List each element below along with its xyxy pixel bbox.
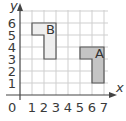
- svg-text:7: 7: [100, 100, 108, 115]
- y-tick-labels: 1 2 3 4 5 6: [8, 16, 16, 91]
- svg-text:5: 5: [76, 100, 84, 115]
- svg-text:2: 2: [40, 100, 48, 115]
- shape-a-label: A: [95, 46, 104, 61]
- x-tick-labels: 1 2 3 4 5 6 7: [28, 100, 108, 115]
- origin-label: 0: [8, 100, 16, 115]
- y-axis-arrow-icon: [17, 3, 23, 11]
- shape-b-label: B: [46, 22, 55, 37]
- svg-text:3: 3: [52, 100, 60, 115]
- y-axis-label: y: [9, 0, 18, 13]
- coordinate-grid: y x 0 1 2 3 4 5 6 7 1 2 3 4 5 6 B A: [0, 0, 126, 121]
- svg-text:4: 4: [64, 100, 72, 115]
- svg-text:6: 6: [88, 100, 96, 115]
- svg-text:1: 1: [28, 100, 36, 115]
- svg-text:6: 6: [8, 16, 16, 31]
- x-axis-label: x: [115, 80, 124, 95]
